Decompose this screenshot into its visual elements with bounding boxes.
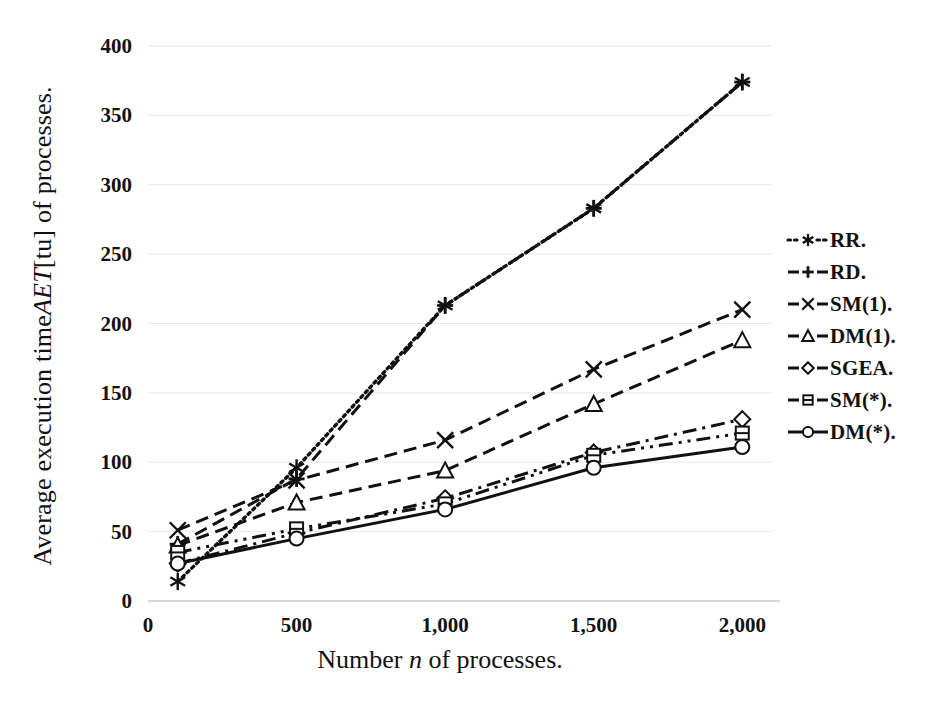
series-line [178,310,743,531]
legend-label: DM(1). [830,324,896,349]
marker-diamond [734,411,750,427]
legend-symbol-circle-icon [786,421,830,443]
legend-label: RD. [830,260,866,285]
legend-item-SM[interactable]: SM(*). [786,384,926,416]
marker-circle [803,427,813,437]
series-line [178,340,743,545]
legend-symbol-square-icon [786,389,830,411]
chart-figure: Average execution time AET [tu] of proce… [0,0,926,727]
legend-item-DM1[interactable]: DM(1). [786,320,926,352]
legend-label: SM(1). [830,292,892,317]
marker-triangle [734,332,750,347]
marker-triangle [437,463,453,478]
marker-circle [587,461,601,475]
series-DM1 [170,332,751,552]
marker-diamond [802,362,814,374]
legend-item-SM1[interactable]: SM(1). [786,288,926,320]
marker-triangle [586,396,602,411]
legend-symbol-diamond-icon [786,357,830,379]
marker-circle [171,557,185,571]
series-line [178,82,743,544]
series-line [178,447,743,564]
series-line [178,419,743,563]
marker-circle [290,532,304,546]
legend-item-DM[interactable]: DM(*). [786,416,926,448]
legend-label: SM(*). [830,388,892,413]
legend-label: DM(*). [830,420,896,445]
legend-label: SGEA. [830,356,893,381]
legend-symbol-triangle-icon [786,325,830,347]
marker-circle [735,440,749,454]
legend-item-RR[interactable]: RR. [786,224,926,256]
marker-triangle [802,330,814,341]
legend-item-SGEA[interactable]: SGEA. [786,352,926,384]
legend-symbol-asterisk-icon [786,229,830,251]
legend-symbol-cross-icon [786,293,830,315]
marker-circle [438,502,452,516]
legend-item-RD[interactable]: RD. [786,256,926,288]
series-RD [170,74,751,552]
legend-symbol-plus-icon [786,261,830,283]
series-SM1 [170,302,751,539]
legend-label: RR. [830,228,866,253]
legend: RR.RD.SM(1).DM(1).SGEA.SM(*).DM(*). [786,224,926,448]
